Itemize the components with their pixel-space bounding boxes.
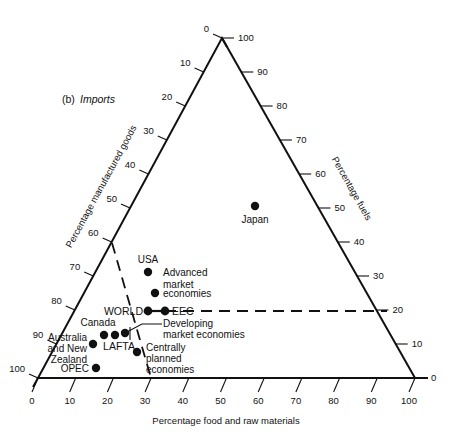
label-centrally-line2: planned bbox=[146, 353, 182, 364]
left-tick-label: 70 bbox=[70, 261, 81, 272]
data-point-eec[interactable] bbox=[161, 307, 170, 316]
right-tick-label: 100 bbox=[238, 32, 254, 43]
label-world: WORLD bbox=[104, 305, 144, 317]
bottom-axis-tick-labels: 0 10 20 30 40 50 60 70 80 90 100 bbox=[29, 395, 417, 406]
label-developing-line1: Developing bbox=[163, 318, 213, 329]
left-tick-label: 90 bbox=[33, 329, 44, 340]
data-point-canada[interactable] bbox=[100, 331, 108, 339]
bottom-tick-label: 40 bbox=[178, 395, 189, 406]
right-tick-label: 80 bbox=[277, 100, 288, 111]
right-tick-label: 20 bbox=[392, 304, 403, 315]
label-advanced-line1: Advanced bbox=[163, 267, 207, 278]
bottom-tick-label: 0 bbox=[29, 395, 34, 406]
data-point-japan[interactable] bbox=[251, 202, 259, 210]
left-tick-label: 80 bbox=[51, 295, 62, 306]
panel-label: (b) bbox=[62, 93, 75, 105]
apex-overshoot bbox=[222, 38, 227, 47]
label-centrally-line1: Centrally bbox=[146, 342, 185, 353]
left-axis-title: Percentage manufactured goods bbox=[63, 123, 139, 250]
data-point-usa[interactable] bbox=[144, 268, 152, 276]
data-point-lafta[interactable] bbox=[111, 331, 119, 339]
left-tick-label: 30 bbox=[143, 125, 154, 136]
right-tick-label: 40 bbox=[354, 236, 365, 247]
bottom-tick-label: 50 bbox=[215, 395, 226, 406]
label-lafta: LAFTA bbox=[103, 340, 135, 352]
bottom-tick-label: 100 bbox=[401, 395, 417, 406]
panel-title: Imports bbox=[80, 93, 116, 105]
bottom-tick-label: 60 bbox=[253, 395, 264, 406]
right-axis-tick-labels: 100 90 80 70 60 50 40 30 20 10 0 bbox=[238, 32, 436, 383]
right-tick-label: 50 bbox=[335, 202, 346, 213]
data-point-developing-market-economies[interactable] bbox=[121, 329, 129, 337]
left-tick-label: 20 bbox=[162, 91, 173, 102]
left-tick-label: 60 bbox=[88, 227, 99, 238]
left-tick-label: 100 bbox=[9, 363, 25, 374]
bottom-tick-label: 10 bbox=[64, 395, 75, 406]
bottom-axis-ticks bbox=[32, 378, 415, 392]
label-japan: Japan bbox=[241, 214, 268, 225]
label-eec: EEC bbox=[172, 305, 194, 317]
bottom-axis: 0 10 20 30 40 50 60 70 80 90 100 Percent… bbox=[29, 378, 417, 426]
label-opec: OPEC bbox=[61, 363, 89, 374]
ternary-chart: (b) Imports 0 10 bbox=[0, 0, 460, 436]
data-point-opec[interactable] bbox=[92, 364, 100, 372]
label-developing-line2: market economies bbox=[163, 329, 245, 340]
right-tick-label: 10 bbox=[412, 338, 423, 349]
bottom-tick-label: 70 bbox=[291, 395, 302, 406]
bottom-tick-label: 20 bbox=[102, 395, 113, 406]
data-point-australia-new-zealand[interactable] bbox=[89, 340, 97, 348]
bottom-axis-title: Percentage food and raw materials bbox=[152, 415, 300, 426]
data-point-advanced-market-economies[interactable] bbox=[151, 289, 159, 297]
label-centrally-line3: economies bbox=[146, 364, 194, 375]
right-tick-label: 90 bbox=[257, 66, 268, 77]
right-tick-label: 60 bbox=[315, 168, 326, 179]
label-australia-line2: and New bbox=[48, 343, 88, 354]
bottom-tick-label: 80 bbox=[328, 395, 339, 406]
label-advanced-line3: economies bbox=[163, 288, 211, 299]
left-tick-label: 10 bbox=[180, 57, 191, 68]
right-tick-label: 30 bbox=[373, 270, 384, 281]
left-tick-label: 0 bbox=[204, 23, 209, 34]
left-tick-label: 40 bbox=[125, 159, 136, 170]
label-australia-line1: Australia bbox=[48, 332, 87, 343]
ternary-diagram-svg: (b) Imports 0 10 bbox=[0, 0, 460, 436]
bottom-tick-label: 90 bbox=[366, 395, 377, 406]
left-tick-label: 50 bbox=[106, 193, 117, 204]
right-tick-label: 70 bbox=[296, 134, 307, 145]
bottom-tick-label: 30 bbox=[140, 395, 151, 406]
label-canada: Canada bbox=[80, 317, 115, 328]
data-point-world[interactable] bbox=[144, 307, 153, 316]
right-tick-label: 0 bbox=[431, 372, 436, 383]
label-usa: USA bbox=[138, 254, 159, 265]
